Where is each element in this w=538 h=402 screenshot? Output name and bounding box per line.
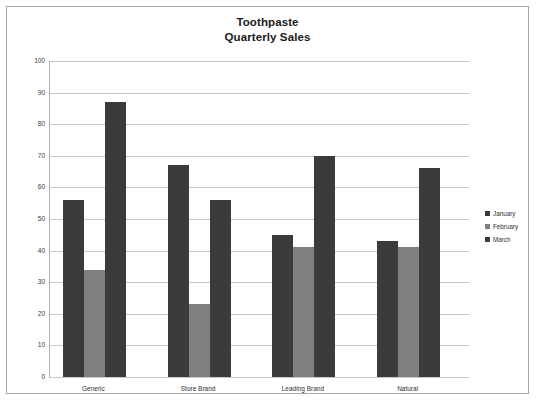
legend-label: January [493,210,515,218]
y-axis-tick-label: 30 [19,278,45,286]
y-axis-tick-label: 40 [19,247,45,255]
legend-swatch-icon [485,224,490,229]
bar [63,200,84,377]
y-axis-tick-label: 70 [19,152,45,160]
x-axis-category-label: Natural [356,385,459,393]
bar [398,247,419,377]
y-axis-tick-label: 90 [19,89,45,97]
bar [314,156,335,377]
legend-label: March [493,236,511,244]
bar [84,270,105,377]
y-axis-tick-label: 100 [19,57,45,65]
legend-item[interactable]: March [485,233,535,246]
y-axis-tick-label: 20 [19,310,45,318]
chart-title-line-2: Quarterly Sales [7,30,528,45]
bar [272,235,293,377]
bar [377,241,398,377]
plot-area [49,55,468,377]
chart-title-line-1: Toothpaste [7,15,528,30]
gridline [50,377,469,378]
legend: JanuaryFebruaryMarch [485,207,535,246]
y-axis-tick-label: 0 [19,373,45,381]
x-axis-category-label: Store Brand [147,385,250,393]
legend-item[interactable]: January [485,207,535,220]
legend-label: February [493,223,518,231]
plot-inner [49,61,469,378]
legend-swatch-icon [485,237,490,242]
bar [419,168,440,377]
y-axis-tick-label: 10 [19,341,45,349]
y-axis-tick-labels: 1009080706050403020100 [15,55,45,385]
chart-frame: Toothpaste Quarterly Sales 1009080706050… [6,6,529,394]
y-axis-tick-label: 60 [19,183,45,191]
bar [210,200,231,377]
bar [293,247,314,377]
gridline [50,61,469,62]
legend-swatch-icon [485,211,490,216]
x-axis-category-label: Leading Brand [251,385,354,393]
bar [189,304,210,377]
bar [105,102,126,377]
legend-item[interactable]: February [485,220,535,233]
chart-title: Toothpaste Quarterly Sales [7,15,528,45]
y-axis-tick-label: 80 [19,120,45,128]
bar [168,165,189,377]
gridline [50,93,469,94]
y-axis-tick-label: 50 [19,215,45,223]
x-axis-category-label: Generic [42,385,145,393]
